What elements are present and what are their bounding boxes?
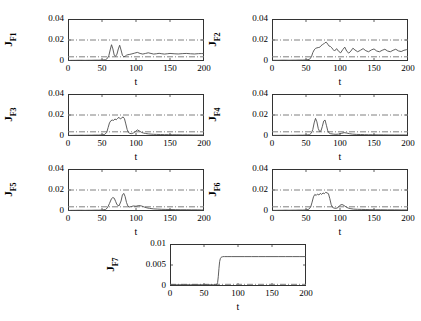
series-line xyxy=(68,117,204,135)
x-axis-label: t xyxy=(272,76,408,87)
y-axis-label: JF1 xyxy=(2,20,17,60)
y-axis-label-base: J xyxy=(2,41,14,47)
y-tick-label: 0.02 xyxy=(26,184,64,194)
x-axis-label: t xyxy=(68,151,204,162)
y-axis-label-subscript: F1 xyxy=(9,32,18,41)
y-axis-label-base: J xyxy=(206,41,218,47)
y-tick-label: 0.04 xyxy=(26,13,64,23)
y-axis-label-base: J xyxy=(104,266,116,272)
x-tick-label: 0 xyxy=(257,138,287,148)
x-tick-label: 100 xyxy=(325,138,355,148)
y-axis-label-subscript: F5 xyxy=(9,182,18,191)
x-axis-label: t xyxy=(68,226,204,237)
x-tick-label: 50 xyxy=(87,213,117,223)
y-tick-label: 0.02 xyxy=(26,109,64,119)
plot-area xyxy=(68,169,204,211)
y-tick-label: 0.04 xyxy=(230,88,268,98)
y-axis-label: JF7 xyxy=(104,245,119,285)
x-tick-label: 100 xyxy=(121,63,151,73)
plot-area xyxy=(170,244,306,286)
x-tick-label: 150 xyxy=(155,138,185,148)
plot-area xyxy=(272,169,408,211)
y-axis-label-subscript: F4 xyxy=(213,107,222,116)
x-tick-label: 0 xyxy=(53,213,83,223)
x-tick-label: 200 xyxy=(189,213,219,223)
plot-area xyxy=(272,19,408,61)
x-tick-label: 200 xyxy=(189,138,219,148)
x-tick-label: 100 xyxy=(223,288,253,298)
y-tick-label: 0.04 xyxy=(230,13,268,23)
x-tick-label: 50 xyxy=(291,63,321,73)
y-axis-label: JF6 xyxy=(206,170,221,210)
y-tick-label: 0.02 xyxy=(26,34,64,44)
x-tick-label: 200 xyxy=(393,138,421,148)
x-axis-label: t xyxy=(272,151,408,162)
x-tick-label: 200 xyxy=(393,213,421,223)
x-tick-label: 200 xyxy=(291,288,321,298)
y-tick-label: 0.02 xyxy=(230,184,268,194)
y-axis-label-base: J xyxy=(2,116,14,122)
y-axis-label-subscript: F2 xyxy=(213,32,222,41)
y-axis-label-base: J xyxy=(2,191,14,197)
x-tick-label: 150 xyxy=(359,138,389,148)
x-tick-label: 50 xyxy=(291,213,321,223)
y-tick-label: 0.005 xyxy=(128,259,166,269)
x-axis-label: t xyxy=(68,76,204,87)
x-tick-label: 50 xyxy=(87,138,117,148)
y-axis-label-subscript: F3 xyxy=(9,107,18,116)
x-tick-label: 50 xyxy=(291,138,321,148)
y-axis-label-base: J xyxy=(206,116,218,122)
series-line xyxy=(68,193,204,210)
y-axis-label-subscript: F7 xyxy=(111,257,120,266)
series-line xyxy=(170,257,306,285)
y-tick-label: 0.04 xyxy=(26,163,64,173)
x-tick-label: 150 xyxy=(359,213,389,223)
y-axis-label-base: J xyxy=(206,191,218,197)
x-tick-label: 0 xyxy=(257,213,287,223)
x-tick-label: 50 xyxy=(189,288,219,298)
y-axis-label: JF2 xyxy=(206,20,221,60)
y-tick-label: 0.01 xyxy=(128,238,166,248)
y-tick-label: 0.02 xyxy=(230,109,268,119)
x-tick-label: 150 xyxy=(359,63,389,73)
x-tick-label: 100 xyxy=(325,213,355,223)
x-tick-label: 100 xyxy=(121,138,151,148)
y-axis-label: JF3 xyxy=(2,95,17,135)
figure-panel-grid: 00.020.04050100150200tJF100.020.04050100… xyxy=(0,0,421,321)
x-tick-label: 0 xyxy=(53,63,83,73)
x-tick-label: 150 xyxy=(257,288,287,298)
series-line xyxy=(272,118,408,135)
y-axis-label-subscript: F6 xyxy=(213,182,222,191)
y-axis-label: JF5 xyxy=(2,170,17,210)
series-line xyxy=(272,42,408,60)
plot-area xyxy=(68,94,204,136)
x-tick-label: 100 xyxy=(325,63,355,73)
series-line xyxy=(272,192,408,210)
x-tick-label: 0 xyxy=(257,63,287,73)
x-tick-label: 200 xyxy=(393,63,421,73)
x-axis-label: t xyxy=(272,226,408,237)
x-axis-label: t xyxy=(170,301,306,312)
y-tick-label: 0.04 xyxy=(230,163,268,173)
y-tick-label: 0.04 xyxy=(26,88,64,98)
x-tick-label: 150 xyxy=(155,63,185,73)
plot-area xyxy=(272,94,408,136)
x-tick-label: 0 xyxy=(53,138,83,148)
x-tick-label: 0 xyxy=(155,288,185,298)
axes-frame xyxy=(171,245,306,286)
x-tick-label: 200 xyxy=(189,63,219,73)
x-tick-label: 100 xyxy=(121,213,151,223)
plot-area xyxy=(68,19,204,61)
x-tick-label: 50 xyxy=(87,63,117,73)
y-tick-label: 0.02 xyxy=(230,34,268,44)
y-axis-label: JF4 xyxy=(206,95,221,135)
x-tick-label: 150 xyxy=(155,213,185,223)
